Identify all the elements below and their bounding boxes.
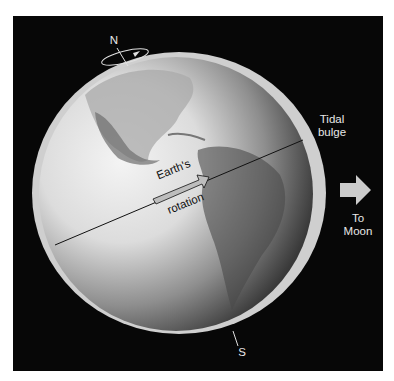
tidal-bulge-line1: Tidal [310, 113, 354, 126]
south-label: S [236, 346, 248, 359]
to-moon-line2: Moon [337, 225, 379, 238]
spin-arrowhead-icon [133, 51, 140, 57]
to-moon-line1: To [337, 212, 379, 225]
north-label: N [108, 34, 120, 47]
to-moon-label: To Moon [337, 212, 379, 238]
to-moon-arrow-icon[interactable] [340, 175, 371, 205]
earth-diagram [0, 0, 394, 381]
tidal-bulge-label: Tidal bulge [310, 113, 354, 139]
south-axis-line [233, 331, 238, 346]
tidal-bulge-line2: bulge [310, 126, 354, 139]
